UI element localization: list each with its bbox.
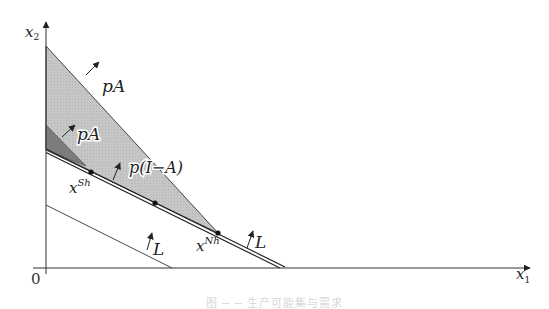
label-x-sh: xSh (69, 177, 91, 197)
label-L-upper: L (254, 232, 266, 252)
y-axis-label: x2 (25, 23, 39, 42)
arrow-pA-large-icon (86, 62, 99, 75)
origin-label: 0 (31, 270, 41, 288)
figure-caption: 图 ─ ─ 生产可能集与需求 (0, 294, 549, 309)
arrow-L-lower-icon (147, 233, 152, 250)
label-pA-large: pA (102, 76, 125, 96)
label-pA-small: pA (76, 124, 104, 144)
region-pA-large (46, 46, 218, 233)
label-p-I-minus-A: p(I−A) (129, 158, 183, 177)
label-L-lower: L (152, 239, 164, 259)
arrow-L-upper-icon (247, 231, 253, 248)
point-mid (152, 200, 157, 205)
svg-text:pA: pA (77, 124, 100, 144)
point-x-sh (88, 169, 93, 174)
label-x-nh: xNh (196, 235, 220, 255)
production-possibility-diagram: pA pA p(I−A) L L xSh xNh x2 x1 0 (0, 0, 549, 309)
